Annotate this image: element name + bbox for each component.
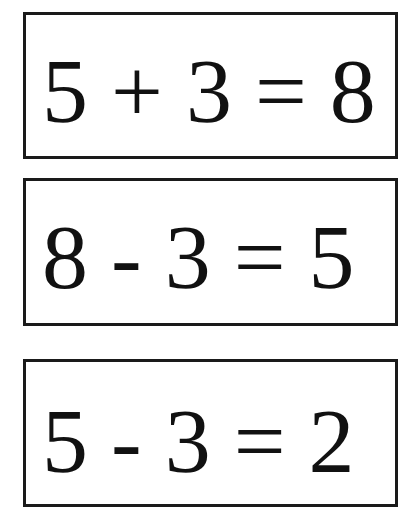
equation-card-subtraction-1: 8 - 3 = 5	[23, 178, 398, 326]
equation-text: 8 - 3 = 5	[42, 211, 355, 303]
equation-card-addition: 5 + 3 = 8	[23, 12, 398, 159]
equation-card-subtraction-2: 5 - 3 = 2	[23, 359, 398, 507]
equation-text: 5 + 3 = 8	[42, 45, 376, 137]
equation-text: 5 - 3 = 2	[42, 395, 355, 487]
